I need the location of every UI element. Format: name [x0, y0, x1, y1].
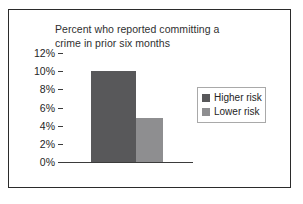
legend-item-label: Higher risk — [214, 93, 262, 103]
gridline-0 — [63, 162, 193, 163]
legend-item[interactable]: Lower risk — [202, 105, 261, 119]
y-axis-tick-label: 10% — [9, 66, 55, 76]
legend-swatch-higher-risk — [202, 94, 210, 102]
y-axis-tick-label-text: 10% — [9, 66, 55, 76]
chart-figure: Percent who reported committing a crime … — [0, 0, 303, 204]
y-axis-tick-label-text: 0% — [9, 157, 55, 167]
y-axis-tick-label-text: 6% — [9, 103, 55, 113]
chart-title-line-1: Percent who reported committing a — [55, 22, 270, 36]
chart-border-frame: Percent who reported committing a crime … — [8, 9, 291, 188]
bar-lower-risk[interactable] — [136, 118, 163, 163]
y-axis-tick-label: 0% — [9, 157, 55, 167]
plot-area — [63, 53, 193, 162]
y-axis-tick-label-text: 8% — [9, 84, 55, 94]
y-axis-tick-label: 8% — [9, 84, 55, 94]
y-axis-tick-label: 4% — [9, 121, 55, 131]
chart-title: Percent who reported committing a crime … — [55, 22, 270, 50]
legend-item-label: Lower risk — [214, 107, 260, 117]
chart-title-line-2: crime in prior six months — [55, 36, 270, 50]
y-axis-tick-label: 6% — [9, 103, 55, 113]
y-axis-tick-label-text: 2% — [9, 139, 55, 149]
y-axis-tick-label-text: 12% — [9, 48, 55, 58]
legend-swatch-lower-risk — [202, 108, 210, 116]
y-axis-tick-label: 12% — [9, 48, 55, 58]
legend-item[interactable]: Higher risk — [202, 91, 261, 105]
y-tick-mark — [58, 162, 63, 163]
y-axis-tick-label-text: 4% — [9, 121, 55, 131]
bar-higher-risk[interactable] — [91, 71, 136, 162]
chart-legend: Higher riskLower risk — [197, 87, 266, 123]
y-axis-tick-label: 2% — [9, 139, 55, 149]
